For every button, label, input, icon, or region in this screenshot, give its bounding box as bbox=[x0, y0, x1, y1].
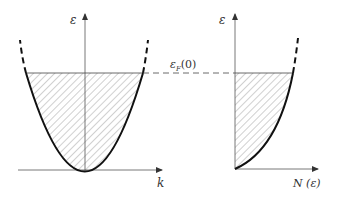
dispersion-curve-extension-right bbox=[143, 40, 148, 73]
fermi-energy-label: εF(0) bbox=[170, 58, 196, 73]
dispersion-curve-extension-left bbox=[20, 40, 26, 73]
dos-curve-extension bbox=[293, 38, 298, 73]
dos-filled-region bbox=[235, 73, 293, 169]
band-diagram: ε k εF(0) ε N (ε) bbox=[0, 0, 338, 200]
energy-axis-label-left: ε bbox=[70, 13, 76, 27]
energy-axis-label-right: ε bbox=[219, 13, 225, 27]
dispersion-panel: ε k bbox=[18, 13, 164, 190]
k-axis-label: k bbox=[157, 176, 164, 190]
dos-axis-label: N (ε) bbox=[292, 177, 321, 190]
density-of-states-panel: ε N (ε) bbox=[219, 13, 321, 190]
